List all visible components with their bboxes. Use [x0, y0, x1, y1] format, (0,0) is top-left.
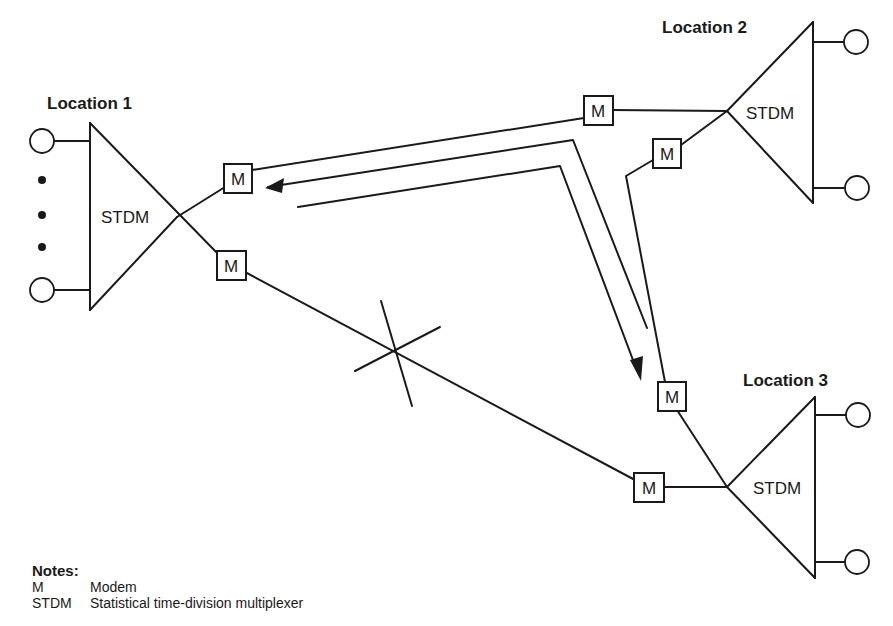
location-1-terminals	[30, 129, 90, 302]
svg-text:M: M	[642, 479, 656, 498]
location-1-stdm-label: STDM	[101, 208, 149, 227]
notes-abbr: M	[32, 579, 90, 595]
location-2-stdm-label: STDM	[746, 104, 794, 123]
modem-l2-left: M	[584, 96, 613, 125]
network-diagram: Location 1 STDM Location 2 STDM	[0, 0, 893, 626]
terminal-icon	[30, 278, 54, 302]
notes-item: STDM Statistical time-division multiplex…	[32, 595, 303, 611]
svg-text:M: M	[660, 145, 674, 164]
location-2-terminals	[813, 30, 869, 200]
location-3-terminals	[815, 403, 870, 574]
svg-text:M: M	[665, 388, 679, 407]
location-1-stdm: STDM	[90, 123, 220, 310]
location-3-stdm: STDM	[727, 397, 815, 578]
ellipsis-dot	[38, 211, 46, 219]
link-break-icon	[355, 301, 440, 406]
notes-abbr: STDM	[32, 595, 90, 611]
arrowhead-down-icon	[630, 356, 643, 381]
notes-meaning: Statistical time-division multiplexer	[90, 595, 303, 611]
link-l2-l3	[626, 160, 665, 382]
terminal-icon	[845, 550, 869, 574]
terminal-icon	[845, 176, 869, 200]
location-3: Location 3 STDM	[727, 371, 870, 578]
notes-item: M Modem	[32, 579, 303, 595]
arrowhead-left-icon	[265, 178, 284, 193]
modem-l3-lower: M	[634, 473, 664, 502]
location-2-stdm: STDM	[727, 22, 813, 203]
link-l1-l3-broken	[245, 272, 635, 480]
svg-text:M: M	[591, 102, 605, 121]
terminal-icon	[844, 30, 868, 54]
modem-l2-lower: M	[653, 139, 681, 168]
ellipsis-dot	[38, 243, 46, 251]
ellipsis-dot	[38, 176, 46, 184]
notes-title: Notes:	[32, 563, 303, 579]
svg-text:M: M	[231, 170, 245, 189]
terminal-icon	[30, 129, 54, 153]
terminal-icon	[846, 403, 870, 427]
modem-l1-upper: M	[224, 164, 252, 193]
modem-l1-lower: M	[217, 251, 246, 280]
link-l1-l2	[252, 118, 584, 170]
reroute-path	[265, 140, 647, 381]
location-1-label: Location 1	[47, 94, 132, 113]
location-3-stdm-label: STDM	[753, 479, 801, 498]
svg-text:M: M	[224, 257, 238, 276]
location-1: Location 1 STDM	[30, 94, 225, 310]
location-3-label: Location 3	[743, 371, 828, 390]
notes-meaning: Modem	[90, 579, 137, 595]
modem-l3-upper: M	[658, 382, 686, 411]
notes-legend: Notes: M Modem STDM Statistical time-div…	[32, 563, 303, 611]
location-2-label: Location 2	[662, 18, 747, 37]
